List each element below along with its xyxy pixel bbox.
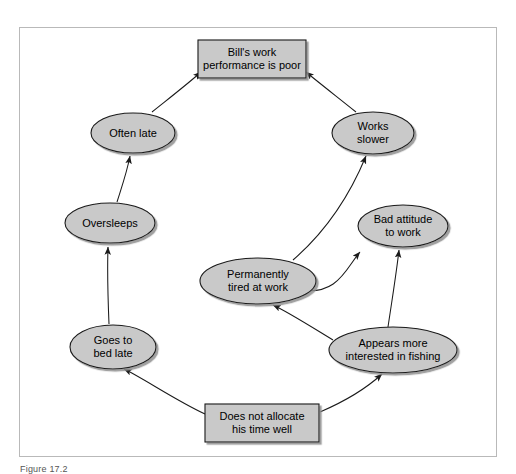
- figure-caption: Figure 17.2: [20, 464, 68, 474]
- edge-goes-to-bed-late-to-oversleeps: [108, 247, 109, 324]
- edge-time-allocation-to-goes-to-bed-late: [124, 369, 205, 414]
- edge-often-late-to-performance: [152, 72, 201, 112]
- edge-fishing-to-permanently-tired: [273, 305, 333, 340]
- node-permanently-tired[interactable]: [200, 258, 316, 304]
- node-often-late[interactable]: [91, 113, 175, 153]
- node-bad-attitude[interactable]: [358, 205, 448, 247]
- node-works-slower[interactable]: [332, 112, 414, 154]
- node-fishing[interactable]: [329, 327, 457, 373]
- node-time-allocation[interactable]: [205, 404, 319, 442]
- node-goes-to-bed-late[interactable]: [70, 325, 156, 369]
- nodes-layer: [65, 40, 457, 442]
- edge-fishing-to-bad-attitude: [388, 250, 399, 327]
- edge-works-slower-to-performance: [306, 72, 356, 112]
- edge-time-allocation-to-fishing: [320, 374, 382, 412]
- node-performance[interactable]: [198, 40, 306, 78]
- node-oversleeps[interactable]: [65, 203, 155, 243]
- edge-oversleeps-to-often-late: [117, 156, 130, 202]
- edge-permanently-tired-to-works-slower: [293, 156, 366, 260]
